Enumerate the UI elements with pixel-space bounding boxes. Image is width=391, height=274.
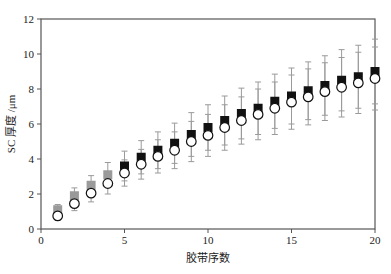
- circle-marker: [170, 145, 180, 155]
- chart: 05101520 024681012 胶带序数 SC 厚度 /μm: [0, 0, 391, 274]
- x-tick-label: 5: [122, 234, 128, 246]
- circle-marker: [370, 74, 380, 84]
- x-axis-title: 胶带序数: [186, 251, 230, 264]
- y-tick-label: 6: [29, 118, 35, 130]
- circle-marker: [120, 168, 130, 178]
- circle-marker: [103, 179, 113, 189]
- y-tick-label: 10: [23, 48, 35, 60]
- error-bars: [55, 39, 378, 220]
- x-tick-label: 15: [286, 234, 298, 246]
- y-axis-ticks: 024681012: [23, 13, 41, 235]
- x-tick-label: 20: [370, 234, 382, 246]
- x-tick-label: 10: [203, 234, 215, 246]
- y-tick-label: 12: [23, 13, 34, 25]
- circle-marker: [253, 110, 263, 120]
- circle-marker: [136, 159, 146, 169]
- circle-marker: [320, 87, 330, 97]
- circle-marker: [187, 137, 197, 147]
- circle-marker: [70, 199, 80, 209]
- circle-marker: [270, 103, 280, 113]
- y-tick-label: 8: [29, 83, 35, 95]
- circle-marker: [337, 82, 347, 92]
- y-tick-label: 4: [29, 153, 35, 165]
- circle-marker: [86, 188, 96, 198]
- circle-marker: [354, 78, 364, 88]
- y-tick-label: 0: [29, 223, 35, 235]
- square-marker: [103, 170, 112, 179]
- circle-marker: [220, 123, 230, 133]
- circle-marker: [237, 116, 247, 126]
- circle-marker: [203, 131, 213, 141]
- y-axis-title: SC 厚度 /μm: [4, 94, 17, 153]
- circle-marker: [153, 152, 163, 162]
- y-tick-label: 2: [29, 188, 35, 200]
- x-axis-ticks: 05101520: [38, 229, 381, 246]
- data-markers: [53, 67, 380, 221]
- circle-marker: [287, 97, 297, 107]
- circle-marker: [53, 211, 63, 221]
- x-tick-label: 0: [38, 234, 44, 246]
- circle-marker: [303, 92, 313, 102]
